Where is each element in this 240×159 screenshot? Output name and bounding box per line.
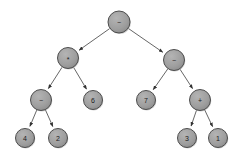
expression-tree-graphic: −*−−67+4231 bbox=[0, 0, 240, 159]
node-multiply[interactable]: * bbox=[58, 48, 80, 70]
node-leaf-7[interactable]: 7 bbox=[137, 91, 157, 111]
node-leaf-3[interactable]: 3 bbox=[178, 129, 198, 149]
edges-layer bbox=[30, 29, 213, 127]
node-minus-right-circle[interactable] bbox=[164, 50, 185, 71]
node-leaf-3-circle[interactable] bbox=[178, 129, 197, 148]
node-leaf-6-circle[interactable] bbox=[84, 91, 103, 110]
node-plus-circle[interactable] bbox=[190, 90, 211, 111]
node-leaf-1-circle[interactable] bbox=[209, 129, 228, 148]
edge-multiply-to-minus-left bbox=[48, 67, 62, 88]
edge-multiply-to-6 bbox=[74, 67, 87, 89]
node-leaf-2-circle[interactable] bbox=[49, 129, 68, 148]
node-minus-left-circle[interactable] bbox=[31, 90, 52, 111]
expression-tree-canvas: −*−−67+4231 bbox=[0, 0, 240, 159]
node-minus-right[interactable]: − bbox=[164, 50, 186, 72]
edge-minus-left-to-2 bbox=[45, 110, 52, 126]
edge-root-to-minus-right bbox=[128, 29, 162, 53]
edge-minus-right-to-7 bbox=[153, 69, 167, 90]
edge-plus-to-3 bbox=[191, 110, 196, 126]
node-leaf-4[interactable]: 4 bbox=[16, 129, 36, 149]
nodes-layer: −*−−67+4231 bbox=[16, 11, 229, 148]
node-root-minus[interactable]: − bbox=[108, 11, 131, 34]
node-root-minus-circle[interactable] bbox=[108, 11, 130, 33]
node-leaf-2[interactable]: 2 bbox=[49, 129, 69, 149]
edge-plus-to-1 bbox=[205, 110, 213, 127]
node-leaf-6[interactable]: 6 bbox=[84, 91, 104, 111]
node-leaf-7-circle[interactable] bbox=[137, 91, 156, 110]
node-multiply-circle[interactable] bbox=[58, 48, 79, 69]
edge-root-to-multiply bbox=[79, 29, 109, 50]
node-leaf-1[interactable]: 1 bbox=[209, 129, 229, 149]
edge-minus-right-to-plus bbox=[180, 69, 193, 88]
edge-minus-left-to-4 bbox=[30, 110, 37, 126]
node-minus-left[interactable]: − bbox=[31, 90, 53, 112]
node-plus[interactable]: + bbox=[190, 90, 212, 112]
node-leaf-4-circle[interactable] bbox=[16, 129, 35, 148]
